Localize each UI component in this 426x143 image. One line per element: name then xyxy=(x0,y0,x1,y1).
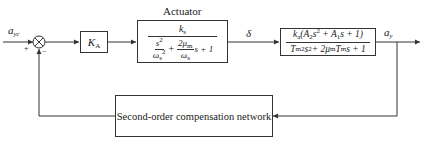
plant-transfer-function: ka(A2s2 + A1s + 1) Tm2s2 + 2μmTms + 1 xyxy=(286,30,370,54)
output-signal-label: ay xyxy=(384,26,393,38)
gain-block: KA xyxy=(80,31,108,53)
actuator-block: ks s2 ωs2 + 2μm ωs s + 1 xyxy=(137,20,228,63)
compensation-network-label: Second-order compensation network xyxy=(117,111,272,122)
minus-sign: − xyxy=(42,47,47,56)
plus-sign: + xyxy=(24,44,29,53)
actuator-title: Actuator xyxy=(163,5,201,17)
input-signal-label: ayc xyxy=(8,24,20,36)
compensation-network-block: Second-order compensation network xyxy=(115,95,273,137)
actuator-output-label: δ xyxy=(246,27,251,39)
actuator-transfer-function: ks s2 ωs2 + 2μm ωs s + 1 xyxy=(148,24,217,60)
gain-label: KA xyxy=(88,36,100,48)
plant-block: ka(A2s2 + A1s + 1) Tm2s2 + 2μmTms + 1 xyxy=(280,28,376,56)
